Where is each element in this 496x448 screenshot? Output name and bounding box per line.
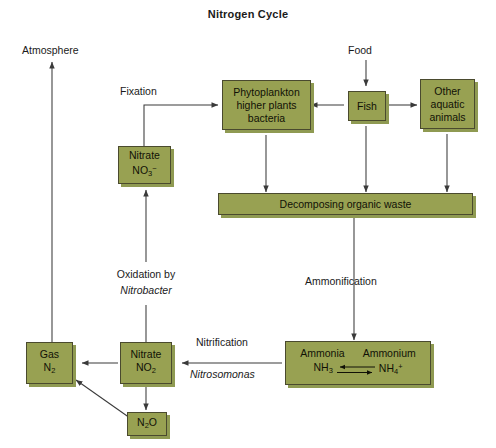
gas-n2-line1: Gas xyxy=(40,348,59,361)
box-other-aquatic-animals: Other aquatic animals xyxy=(420,79,475,129)
label-nitrosomonas: Nitrosomonas xyxy=(190,368,255,381)
decomposing-label: Decomposing organic waste xyxy=(280,198,412,211)
nitrate-no2-line1: Nitrate xyxy=(131,348,162,361)
label-ammonification: Ammonification xyxy=(305,275,377,288)
label-fixation: Fixation xyxy=(120,85,157,98)
label-atmosphere: Atmosphere xyxy=(22,44,79,57)
box-ammonia-ammonium: Ammonia Ammonium NH3 NH4+ xyxy=(285,341,431,385)
gas-n2-formula: N2 xyxy=(44,361,56,377)
nitrate-no2-formula: NO2 xyxy=(136,361,156,377)
box-nitrate-no3: Nitrate NO3− xyxy=(118,146,171,184)
box-gas-n2: Gas N2 xyxy=(26,342,73,384)
other-animals-line1: Other xyxy=(434,85,460,98)
ammonia-label: Ammonia xyxy=(300,347,344,360)
page-title: Nitrogen Cycle xyxy=(0,8,496,20)
box-decomposing-organic-waste: Decomposing organic waste xyxy=(218,193,473,215)
box-n2o: N2O xyxy=(127,412,167,436)
label-oxidation-by: Oxidation by xyxy=(100,268,192,281)
ammonium-label: Ammonium xyxy=(363,347,416,360)
box-phytoplankton: Phytoplankton higher plants bacteria xyxy=(222,80,311,130)
box-nitrate-no2: Nitrate NO2 xyxy=(120,342,172,384)
ammonium-formula: NH4+ xyxy=(379,360,403,378)
phytoplankton-line2: higher plants xyxy=(236,99,296,112)
ammonia-formula: NH3 xyxy=(313,361,332,377)
phytoplankton-line3: bacteria xyxy=(248,112,285,125)
nitrate-no3-formula: NO3− xyxy=(132,162,156,180)
other-animals-line2: aquatic xyxy=(431,98,465,111)
label-food: Food xyxy=(348,44,372,57)
n2o-formula: N2O xyxy=(137,416,157,432)
ammonia-ammonium-names: Ammonia Ammonium xyxy=(300,347,415,360)
equilibrium-arrows-icon xyxy=(335,363,377,376)
other-animals-line3: animals xyxy=(429,111,465,124)
phytoplankton-line1: Phytoplankton xyxy=(233,86,300,99)
box-fish: Fish xyxy=(348,91,386,121)
ammonia-ammonium-equilibrium: NH3 NH4+ xyxy=(313,360,402,378)
label-nitrification: Nitrification xyxy=(196,336,248,349)
nitrate-no3-line1: Nitrate xyxy=(129,149,160,162)
label-nitrobacter: Nitrobacter xyxy=(100,284,192,297)
fish-label: Fish xyxy=(357,100,377,113)
nitrogen-cycle-diagram: Nitrogen Cycle xyxy=(0,0,496,448)
